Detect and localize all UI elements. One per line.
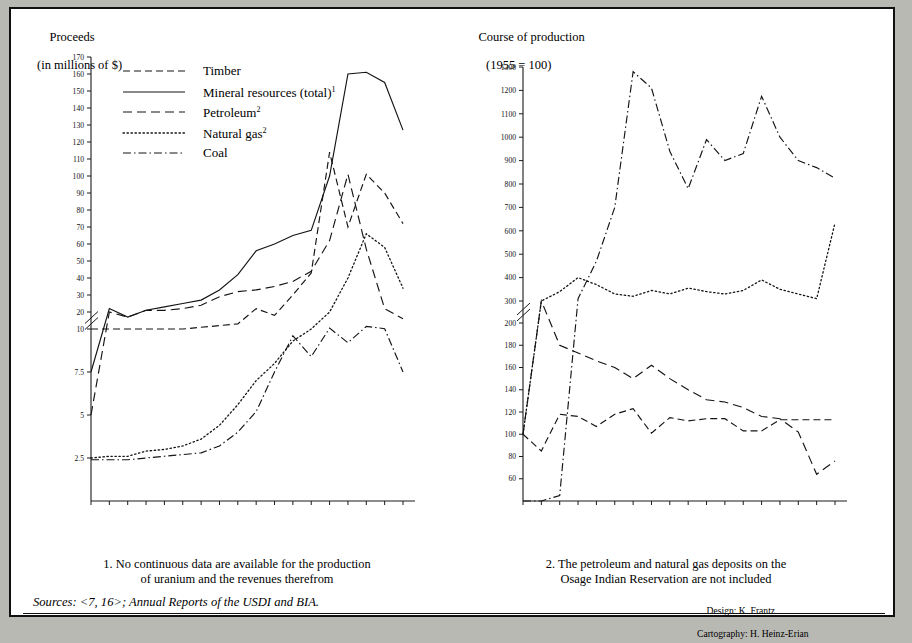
- y-tick-label: 100: [73, 172, 85, 181]
- legend-swatch-long-dashed: [121, 106, 187, 118]
- y-tick-label: 600: [505, 227, 517, 236]
- footnote-1: 1. No continuous data are available for …: [47, 557, 427, 587]
- y-tick-label: 1100: [501, 110, 516, 119]
- y-tick-label: 800: [505, 180, 517, 189]
- figure-frame: Proceeds (in millions of $) Course of pr…: [9, 7, 895, 617]
- legend-swatch-dashed: [121, 65, 187, 77]
- legend-label: Coal: [203, 143, 228, 164]
- footnote-2-line2: Osage Indian Reservation are not include…: [471, 572, 861, 587]
- y-tick-label: 50: [76, 257, 84, 266]
- legend-item: Natural gas2: [121, 123, 336, 144]
- legend-item: Petroleum2: [121, 102, 336, 123]
- y-tick-label: 150: [73, 87, 85, 96]
- y-tick-label: 120: [73, 138, 85, 147]
- course-of-production-chart: 6080100120140160180200300400500600700800…: [469, 49, 869, 509]
- y-tick-label: 700: [505, 203, 517, 212]
- y-tick-label: 20: [76, 308, 84, 317]
- y-tick-label: 140: [505, 385, 517, 394]
- y-tick-label: 90: [76, 189, 84, 198]
- legend-item: Coal: [121, 143, 336, 164]
- series-petroleum: [91, 174, 403, 415]
- legend-label: Natural gas2: [203, 121, 267, 145]
- legend-label: Timber: [203, 61, 241, 82]
- footnote-1-line1: 1. No continuous data are available for …: [103, 557, 370, 571]
- series-timber: [91, 152, 403, 329]
- legend-swatch-dotted: [121, 127, 187, 139]
- y-tick-label: 40: [76, 274, 84, 283]
- y-tick-label: 80: [76, 206, 84, 215]
- footnote-1-line2: of uranium and the revenues therefrom: [47, 572, 427, 587]
- y-tick-label: 60: [76, 240, 84, 249]
- y-tick-label: 160: [73, 70, 85, 79]
- y-tick-label: 10: [76, 325, 84, 334]
- y-tick-label: 900: [505, 156, 517, 165]
- legend-item: Mineral resources (total)1: [121, 82, 336, 103]
- y-tick-label: 140: [73, 104, 85, 113]
- y-tick-label: 1200: [501, 86, 516, 95]
- legend-item: Timber: [121, 61, 336, 82]
- legend: TimberMineral resources (total)1Petroleu…: [121, 61, 336, 164]
- footnote-2: 2. The petroleum and natural gas deposit…: [471, 557, 861, 587]
- series-timber: [523, 409, 835, 451]
- y-tick-label: 1000: [501, 133, 516, 142]
- y-tick-label: 500: [505, 250, 517, 259]
- y-tick-label: 30: [76, 291, 84, 300]
- y-tick-label: 100: [505, 430, 517, 439]
- y-tick-label: 7.5: [75, 368, 85, 377]
- series-natural-gas: [91, 234, 403, 458]
- y-tick-label: 60: [508, 474, 516, 483]
- credit-cartography: Cartography: H. Heinz-Erian: [697, 628, 809, 640]
- sources-line: Sources: <7, 16>; Annual Reports of the …: [33, 595, 319, 610]
- y-tick-label: 120: [505, 408, 517, 417]
- right-chart-title: Course of production: [479, 30, 585, 44]
- y-tick-label: 2.5: [75, 454, 85, 463]
- y-tick-label: 110: [73, 155, 84, 164]
- y-tick-label: 400: [505, 273, 517, 282]
- series-natural-gas: [523, 223, 835, 434]
- y-tick-label: 80: [508, 452, 516, 461]
- left-chart-title: Proceeds: [50, 30, 95, 44]
- y-tick-label: 70: [76, 223, 84, 232]
- y-tick-label: 180: [505, 341, 517, 350]
- y-tick-label: 130: [73, 121, 85, 130]
- y-tick-label: 1300: [501, 63, 516, 72]
- legend-swatch-dash-dot: [121, 147, 187, 159]
- credits-block: Design: K. Frantz Cartography: H. Heinz-…: [697, 593, 809, 643]
- y-tick-label: 160: [505, 363, 517, 372]
- y-tick-label: 170: [73, 53, 85, 62]
- footnote-2-line1: 2. The petroleum and natural gas deposit…: [546, 557, 786, 571]
- series-coal: [523, 72, 835, 501]
- y-tick-label: 5: [80, 411, 84, 420]
- y-tick-label: 300: [505, 297, 517, 306]
- legend-swatch-solid: [121, 86, 187, 98]
- bottom-rule: [23, 613, 885, 614]
- y-tick-label: 200: [505, 319, 517, 328]
